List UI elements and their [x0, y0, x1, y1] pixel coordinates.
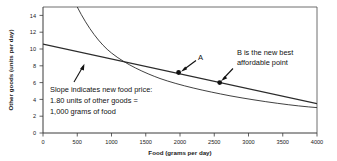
- y-tick-label: 8: [33, 63, 36, 69]
- slope-annotation-line-2: 1.80 units of other goods =: [50, 96, 138, 105]
- point-b-annotation-line-2: affordable point: [237, 58, 288, 67]
- x-tick-label: 2000: [174, 139, 186, 145]
- chart-container: 0 2 4 6 8 10 12 14 0 500 1000 1500 2000 …: [0, 0, 337, 161]
- x-axis-title: Food (grams per day): [148, 149, 211, 156]
- x-tick-label: 4000: [311, 139, 323, 145]
- point-b-annotation-line-1: B is the new best: [237, 48, 293, 57]
- x-tick-label: 3000: [242, 139, 254, 145]
- y-tick-label: 10: [30, 46, 36, 52]
- x-tick-label: 1000: [105, 139, 117, 145]
- y-tick-label: 2: [33, 113, 36, 119]
- data-point-b: [217, 80, 222, 85]
- point-b-annotation: B is the new best affordable point: [237, 48, 293, 67]
- x-tick-label: 3500: [277, 139, 289, 145]
- data-point-a: [176, 70, 181, 75]
- y-tick-label: 6: [33, 80, 36, 86]
- x-tick-label: 0: [41, 139, 44, 145]
- y-axis-title: Other goods (units per day): [7, 29, 14, 110]
- slope-annotation-line-3: 1,000 grams of food: [50, 107, 116, 116]
- y-tick-label: 14: [30, 13, 36, 19]
- slope-annotation-line-1: Slope indicates new food price:: [50, 85, 152, 94]
- economics-indifference-chart: 0 2 4 6 8 10 12 14 0 500 1000 1500 2000 …: [0, 0, 337, 161]
- y-tick-label: 12: [30, 29, 36, 35]
- y-tick-label: 0: [33, 130, 36, 136]
- chart-background: [0, 0, 337, 161]
- y-tick-label: 4: [33, 97, 36, 103]
- x-tick-label: 500: [73, 139, 82, 145]
- x-tick-label: 2500: [208, 139, 220, 145]
- x-tick-label: 1500: [140, 139, 152, 145]
